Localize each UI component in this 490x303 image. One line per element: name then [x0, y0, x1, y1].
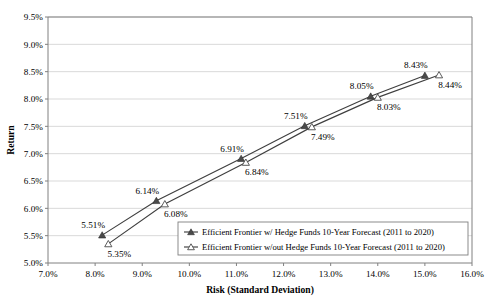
data-point-marker	[367, 93, 374, 99]
data-point-marker	[435, 72, 442, 78]
x-tick-label: 8.0%	[86, 269, 105, 279]
x-tick-label: 16.0%	[460, 269, 484, 279]
legend-label-1: Efficient Frontier w/ Hedge Funds 10-Yea…	[202, 227, 434, 237]
x-tick-label: 13.0%	[319, 269, 343, 279]
y-tick-label: 9.5%	[24, 12, 43, 22]
data-point-label: 6.91%	[220, 144, 244, 154]
y-tick-label: 8.0%	[24, 94, 43, 104]
data-point-label: 7.51%	[284, 111, 308, 121]
data-point-label: 5.51%	[81, 220, 105, 230]
y-tick-label: 8.5%	[24, 67, 43, 77]
x-tick-label: 12.0%	[272, 269, 296, 279]
data-point-marker	[238, 155, 245, 161]
y-tick-label: 7.0%	[24, 149, 43, 159]
data-point-marker	[301, 122, 308, 128]
x-tick-label: 10.0%	[177, 269, 201, 279]
data-point-label: 5.35%	[107, 249, 131, 259]
data-point-label: 8.43%	[404, 60, 428, 70]
data-point-label: 7.49%	[311, 132, 335, 142]
data-point-label: 8.03%	[377, 102, 401, 112]
data-point-marker	[161, 201, 168, 207]
data-point-marker	[153, 197, 160, 203]
x-tick-label: 7.0%	[38, 269, 57, 279]
x-axis-title: Risk (Standard Deviation)	[206, 284, 314, 296]
series-line-2	[108, 75, 439, 244]
x-tick-label: 9.0%	[133, 269, 152, 279]
data-point-label: 6.14%	[135, 186, 159, 196]
data-point-marker	[421, 72, 428, 78]
data-point-label: 6.08%	[164, 209, 188, 219]
data-point-marker	[99, 232, 106, 238]
legend-label-2: Efficient Frontier w/out Hedge Funds 10-…	[202, 242, 445, 252]
data-point-label: 8.05%	[350, 81, 374, 91]
data-point-label: 8.44%	[438, 80, 462, 90]
x-tick-label: 14.0%	[366, 269, 390, 279]
chart-canvas: 5.0%5.5%6.0%6.5%7.0%7.5%8.0%8.5%9.0%9.5%…	[0, 0, 490, 303]
efficient-frontier-chart: 5.0%5.5%6.0%6.5%7.0%7.5%8.0%8.5%9.0%9.5%…	[0, 0, 490, 303]
y-tick-label: 7.5%	[24, 122, 43, 132]
x-tick-label: 11.0%	[225, 269, 249, 279]
y-tick-label: 5.5%	[24, 231, 43, 241]
y-tick-label: 9.0%	[24, 40, 43, 50]
data-point-label: 6.84%	[245, 167, 269, 177]
y-axis-title: Return	[5, 125, 16, 155]
x-tick-label: 15.0%	[413, 269, 437, 279]
y-tick-label: 6.5%	[24, 176, 43, 186]
y-tick-label: 5.0%	[24, 258, 43, 268]
y-tick-label: 6.0%	[24, 204, 43, 214]
